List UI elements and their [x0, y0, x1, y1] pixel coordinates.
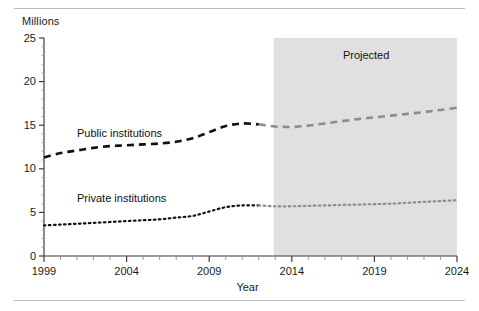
- series-label-private-institutions: Private institutions: [77, 192, 166, 204]
- x-tick-label: 1999: [14, 266, 74, 277]
- x-tick-label: 2024: [427, 266, 479, 277]
- x-axis-title-text: Year: [236, 281, 258, 294]
- x-axis-title: Year: [0, 281, 479, 294]
- plot-area: [0, 0, 479, 311]
- y-tick-label: 15: [12, 120, 36, 131]
- projected-band-label: Projected: [306, 49, 426, 61]
- y-tick-label: 0: [12, 251, 36, 262]
- series-line-actual-private: [44, 205, 259, 225]
- y-tick-label: 20: [12, 76, 36, 87]
- projected-shaded-band: [274, 38, 457, 256]
- y-tick-label: 5: [12, 207, 36, 218]
- y-tick-label: 10: [12, 163, 36, 174]
- chart-figure: Millions Year 05101520251999200420092014…: [0, 0, 479, 311]
- x-tick-label: 2014: [262, 266, 322, 277]
- series-label-public-institutions: Public institutions: [77, 127, 162, 139]
- x-tick-label: 2009: [179, 266, 239, 277]
- x-tick-label: 2004: [97, 266, 157, 277]
- x-tick-label: 2019: [344, 266, 404, 277]
- y-tick-label: 25: [12, 33, 36, 44]
